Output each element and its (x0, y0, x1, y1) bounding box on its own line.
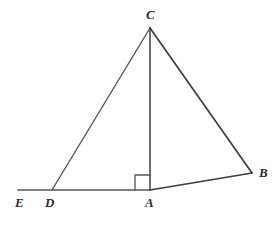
segment-ab (150, 173, 252, 190)
figure-canvas (0, 0, 277, 226)
vertex-label-b: B (259, 166, 268, 179)
segment-dc (52, 28, 150, 190)
segment-cb (150, 28, 252, 173)
vertex-label-a: A (145, 196, 154, 209)
vertex-label-d: D (45, 196, 54, 209)
vertex-label-e: E (15, 196, 24, 209)
vertex-label-c: C (146, 8, 155, 21)
right-angle-marker-icon (135, 175, 150, 190)
geometry-diagram: E D A C B (0, 0, 277, 226)
